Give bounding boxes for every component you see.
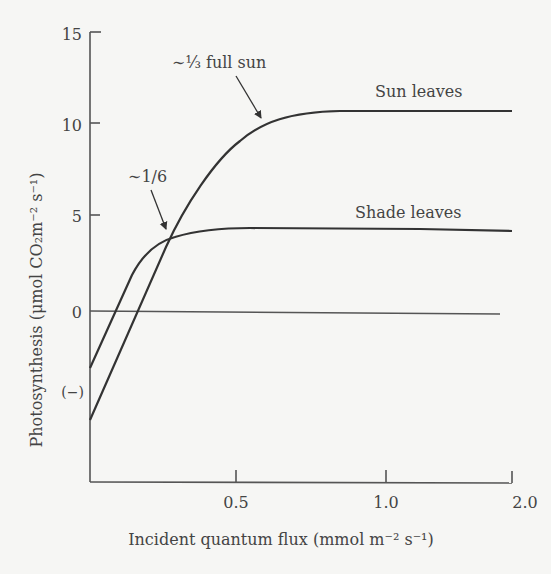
x-label-0.5: 0.5 (223, 493, 248, 512)
x-axis-title: Incident quantum flux (mmol m⁻² s⁻¹) (128, 530, 434, 549)
y-label-5: 5 (72, 207, 82, 226)
y-label-15: 15 (62, 25, 82, 44)
y-label-negative: (−) (61, 384, 84, 400)
y-label-10: 10 (62, 116, 82, 135)
x-label-2.0: 2.0 (512, 493, 537, 512)
third-sun-arrow (236, 76, 261, 118)
zero-line (90, 311, 500, 314)
shade-leaves-curve (90, 228, 512, 368)
sixth-arrow (151, 190, 166, 229)
y-label-0: 0 (72, 303, 82, 322)
annotation-third-full-sun: ∼⅓ full sun (172, 53, 266, 72)
light-response-chart: 15 10 5 0 (−) 0.5 1.0 2.0 Incident quant… (0, 0, 551, 574)
annotation-one-sixth: ∼1/6 (128, 167, 167, 186)
x-axis (90, 482, 512, 483)
sun-leaves-curve (90, 111, 512, 420)
y-axis-title: Photosynthesis (μmol CO₂m⁻² s⁻¹) (27, 173, 46, 448)
sun-leaves-label: Sun leaves (375, 82, 463, 101)
shade-leaves-label: Shade leaves (355, 203, 461, 222)
x-label-1.0: 1.0 (373, 493, 398, 512)
